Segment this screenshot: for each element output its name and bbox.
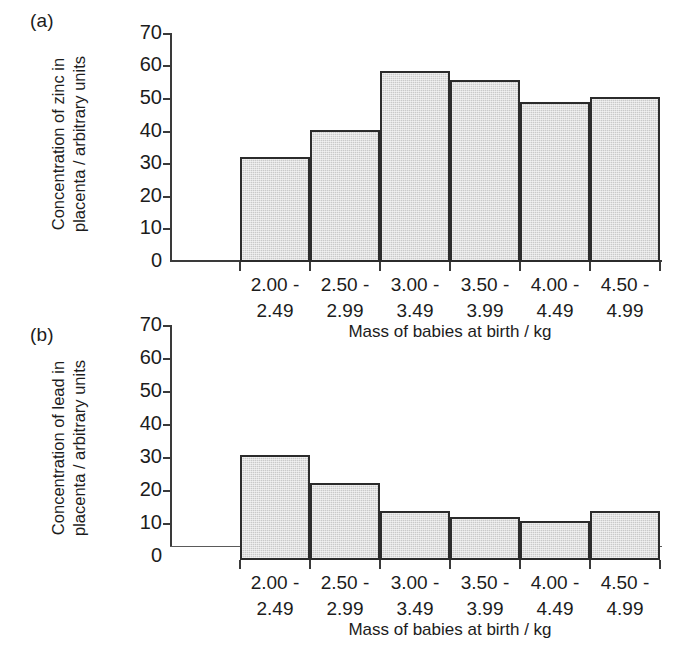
x-category-label-b-5: 4.00 - 4.49 — [520, 570, 590, 622]
y-tick-a-50 — [163, 98, 171, 100]
bar-a-2 — [310, 130, 380, 262]
y-tick-a-10 — [163, 228, 171, 230]
y-tick-b-40 — [163, 424, 171, 426]
x-category-label-b-2: 2.50 - 2.99 — [310, 570, 380, 622]
x-category-label-a-1-line1: 2.00 - — [240, 272, 310, 298]
y-ticklabel-b-50: 50 — [118, 379, 162, 402]
x-category-label-a-6: 4.50 - 4.99 — [590, 272, 660, 324]
plot-area-b: 70 60 50 40 30 20 10 0 2.00 — [0, 318, 688, 655]
x-category-label-a-3-line1: 3.00 - — [380, 272, 450, 298]
x-category-label-b-3: 3.00 - 3.49 — [380, 570, 450, 622]
x-tick-a-4 — [449, 262, 451, 271]
x-tick-b-7 — [659, 560, 661, 569]
y-ticklabel-b-70: 70 — [118, 313, 162, 336]
bar-a-4 — [450, 80, 520, 262]
bar-a-1 — [240, 157, 310, 262]
x-category-label-b-5-line1: 4.00 - — [520, 570, 590, 596]
x-tick-a-6 — [589, 262, 591, 271]
plot-area-a: 70 60 50 40 30 20 10 0 2.00 — [0, 0, 688, 330]
x-tick-a-1 — [239, 262, 241, 271]
y-ticklabel-a-0: 0 — [118, 249, 162, 272]
bar-a-3 — [380, 71, 450, 262]
y-ticklabel-a-30: 30 — [118, 151, 162, 174]
y-ticklabel-a-70: 70 — [118, 21, 162, 44]
panel-b: (b) Concentration of lead in placenta / … — [0, 318, 688, 655]
y-ticklabel-a-20: 20 — [118, 184, 162, 207]
y-ticklabel-a-60: 60 — [118, 53, 162, 76]
x-category-label-a-1: 2.00 - 2.49 — [240, 272, 310, 324]
x-category-label-b-1: 2.00 - 2.49 — [240, 570, 310, 622]
x-category-label-a-5: 4.00 - 4.49 — [520, 272, 590, 324]
x-category-label-b-1-line1: 2.00 - — [240, 570, 310, 596]
x-category-label-b-6: 4.50 - 4.99 — [590, 570, 660, 622]
x-tick-a-5 — [519, 262, 521, 271]
x-category-label-b-3-line2: 3.49 — [380, 596, 450, 622]
y-tick-a-60 — [163, 65, 171, 67]
bar-b-6 — [590, 511, 660, 560]
x-axis-title-b: Mass of babies at birth / kg — [240, 620, 660, 640]
x-category-label-a-6-line1: 4.50 - — [590, 272, 660, 298]
y-tick-a-70 — [163, 33, 171, 35]
y-ticklabel-a-50: 50 — [118, 86, 162, 109]
y-ticklabel-b-30: 30 — [118, 445, 162, 468]
y-tick-b-50 — [163, 391, 171, 393]
x-category-label-b-5-line2: 4.49 — [520, 596, 590, 622]
x-category-label-b-3-line1: 3.00 - — [380, 570, 450, 596]
x-category-label-a-2-line1: 2.50 - — [310, 272, 380, 298]
panel-a: (a) Concentration of zinc in placenta / … — [0, 0, 688, 330]
bar-b-1 — [240, 455, 310, 560]
x-tick-b-2 — [309, 560, 311, 569]
y-ticklabel-b-0: 0 — [118, 544, 162, 567]
y-tick-b-30 — [163, 457, 171, 459]
bar-b-3 — [380, 511, 450, 560]
y-tick-a-20 — [163, 196, 171, 198]
x-category-label-a-5-line1: 4.00 - — [520, 272, 590, 298]
x-tick-b-1 — [239, 560, 241, 569]
y-ticklabel-b-40: 40 — [118, 412, 162, 435]
x-category-label-b-4-line2: 3.99 — [450, 596, 520, 622]
x-category-label-b-2-line1: 2.50 - — [310, 570, 380, 596]
bar-a-5 — [520, 102, 590, 262]
bar-b-5 — [520, 521, 590, 560]
x-category-label-b-4: 3.50 - 3.99 — [450, 570, 520, 622]
bar-b-2 — [310, 483, 380, 560]
y-ticklabel-b-10: 10 — [118, 511, 162, 534]
bar-b-4 — [450, 517, 520, 560]
x-tick-a-7 — [659, 262, 661, 271]
x-category-label-b-6-line1: 4.50 - — [590, 570, 660, 596]
y-ticklabel-b-60: 60 — [118, 346, 162, 369]
y-tick-a-30 — [163, 163, 171, 165]
y-tick-b-20 — [163, 490, 171, 492]
x-category-label-b-1-line2: 2.49 — [240, 596, 310, 622]
y-tick-a-40 — [163, 131, 171, 133]
bar-a-6 — [590, 97, 660, 262]
y-ticklabel-b-20: 20 — [118, 478, 162, 501]
y-ticklabel-a-40: 40 — [118, 119, 162, 142]
y-ticklabel-a-10: 10 — [118, 216, 162, 239]
x-tick-a-3 — [379, 262, 381, 271]
x-category-label-a-3: 3.00 - 3.49 — [380, 272, 450, 324]
x-tick-b-3 — [379, 560, 381, 569]
x-tick-b-5 — [519, 560, 521, 569]
x-category-label-a-2: 2.50 - 2.99 — [310, 272, 380, 324]
x-category-label-b-6-line2: 4.99 — [590, 596, 660, 622]
x-tick-b-6 — [589, 560, 591, 569]
figure-two-panel-histograms: (a) Concentration of zinc in placenta / … — [0, 0, 688, 655]
y-tick-b-10 — [163, 523, 171, 525]
x-tick-a-2 — [309, 262, 311, 271]
x-category-label-b-2-line2: 2.99 — [310, 596, 380, 622]
y-tick-b-60 — [163, 358, 171, 360]
x-category-label-a-4-line1: 3.50 - — [450, 272, 520, 298]
y-tick-b-70 — [163, 325, 171, 327]
x-category-label-b-4-line1: 3.50 - — [450, 570, 520, 596]
x-tick-b-4 — [449, 560, 451, 569]
x-category-label-a-4: 3.50 - 3.99 — [450, 272, 520, 324]
